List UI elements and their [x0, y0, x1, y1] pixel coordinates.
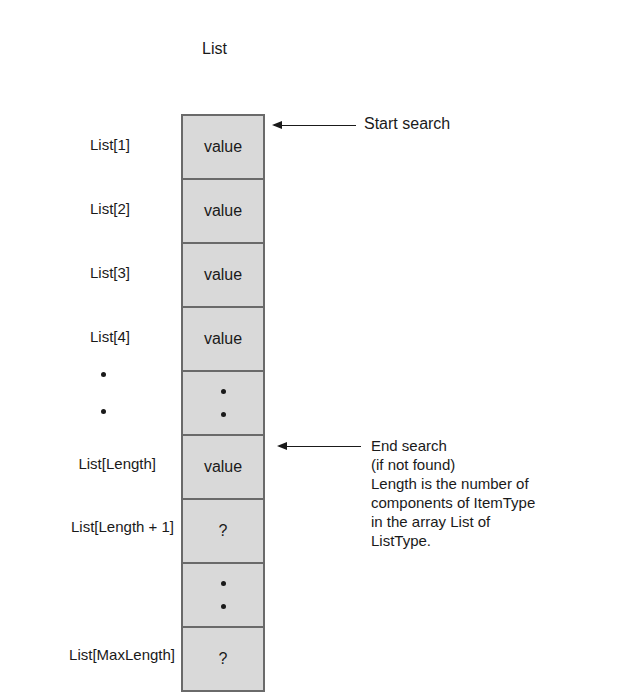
end-search-condition: (if not found) [371, 455, 535, 474]
array-cell: ? [183, 500, 263, 564]
index-label-2: List[2] [0, 200, 130, 217]
cell-value: ? [219, 522, 228, 540]
ellipsis-dot [221, 389, 226, 394]
length-note-line: Length is the number of [371, 474, 535, 493]
cell-value: ? [219, 650, 228, 668]
array-cell: value [183, 244, 263, 308]
cell-value: value [204, 330, 242, 348]
ellipsis-dot [101, 372, 106, 377]
array-cell: value [183, 308, 263, 372]
array-cell-ellipsis [183, 564, 263, 628]
array-cell: value [183, 180, 263, 244]
index-label-length: List[Length] [0, 455, 156, 472]
index-ellipsis [101, 372, 106, 446]
index-label-maxlength: List[MaxLength] [0, 646, 175, 663]
cell-value: value [204, 138, 242, 156]
cell-value: value [204, 202, 242, 220]
array-cell: value [183, 116, 263, 180]
length-note-line: ListType. [371, 531, 535, 550]
end-search-note: End search (if not found) Length is the … [371, 436, 535, 550]
array-title: List [202, 40, 227, 58]
ellipsis-dot [221, 581, 226, 586]
index-label-3: List[3] [0, 264, 130, 281]
end-arrow-icon [279, 446, 361, 447]
index-label-1: List[1] [0, 136, 130, 153]
index-label-4: List[4] [0, 328, 130, 345]
array-cell-ellipsis [183, 372, 263, 436]
ellipsis-dot [101, 409, 106, 414]
ellipsis-dot [221, 604, 226, 609]
index-label-length-plus-1: List[Length + 1] [0, 518, 174, 535]
ellipsis-dot [221, 412, 226, 417]
end-search-label: End search [371, 436, 535, 455]
length-note-line: in the array List of [371, 512, 535, 531]
array-list: value value value value value ? ? [181, 114, 265, 692]
length-note-line: components of ItemType [371, 493, 535, 512]
array-cell: value [183, 436, 263, 500]
start-arrow-icon [274, 125, 356, 126]
cell-value: value [204, 458, 242, 476]
array-cell: ? [183, 628, 263, 690]
start-search-label: Start search [364, 114, 450, 133]
cell-value: value [204, 266, 242, 284]
